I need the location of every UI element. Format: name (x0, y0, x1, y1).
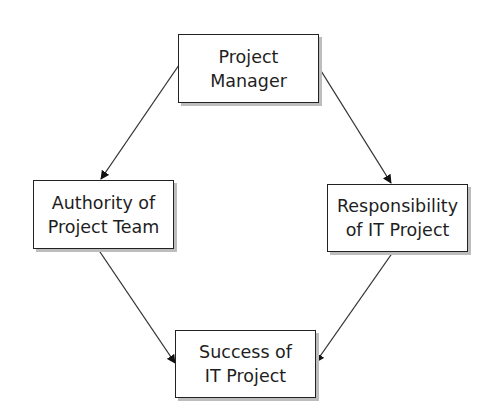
diagram-canvas: Project Manager Authority of Project Tea… (0, 0, 490, 420)
arrow-responsibility-to-success (316, 252, 393, 362)
arrow-pm-to-authority (101, 65, 179, 179)
node-label-line: Manager (210, 69, 287, 93)
node-label-line: Responsibility (337, 194, 458, 218)
node-label-line: Project Team (48, 215, 160, 239)
node-label-line: of IT Project (346, 218, 450, 242)
node-label-line: IT Project (205, 364, 286, 388)
node-label-line: Authority of (52, 191, 155, 215)
arrow-authority-to-success (98, 249, 175, 363)
node-authority-of-project-team: Authority of Project Team (33, 180, 174, 249)
node-label-line: Success of (199, 340, 292, 364)
node-responsibility-of-it-project: Responsibility of IT Project (327, 184, 468, 252)
node-label-line: Project (219, 45, 279, 69)
node-success-of-it-project: Success of IT Project (175, 330, 316, 398)
arrow-pm-to-responsibility (318, 66, 391, 183)
node-project-manager: Project Manager (178, 34, 319, 103)
